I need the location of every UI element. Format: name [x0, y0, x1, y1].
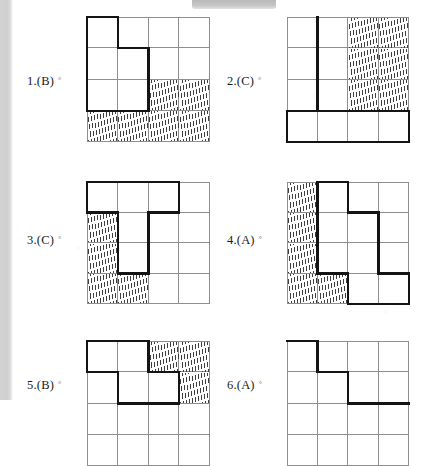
grid-cell[interactable] — [149, 435, 180, 466]
grid-cell[interactable] — [348, 274, 379, 305]
grid-cell[interactable] — [379, 372, 410, 403]
grid-cell[interactable] — [179, 182, 210, 213]
bold-outline-segment — [86, 110, 150, 112]
grid-cell[interactable] — [287, 80, 318, 111]
grid-cell[interactable] — [318, 404, 349, 435]
answer-label-text: 6.(A) — [227, 378, 255, 392]
grid-cell[interactable] — [87, 435, 118, 466]
scan-edge-shadow — [0, 0, 13, 400]
grid-cell[interactable] — [348, 404, 379, 435]
grid-cell[interactable] — [287, 341, 318, 372]
grid-cell[interactable] — [118, 213, 149, 244]
bold-outline-segment — [347, 211, 380, 213]
grid-cell[interactable] — [149, 48, 180, 79]
grid-cell[interactable] — [348, 372, 379, 403]
grid-cell[interactable] — [179, 435, 210, 466]
grid-cell[interactable] — [318, 213, 349, 244]
label-marker-icon: ° — [258, 76, 261, 85]
grid-cell[interactable] — [118, 243, 149, 274]
grid-cell[interactable] — [379, 274, 410, 305]
grid-cell[interactable] — [179, 48, 210, 79]
bold-outline-segment — [86, 16, 88, 112]
grid-cell[interactable] — [318, 243, 349, 274]
grid-cell[interactable] — [287, 404, 318, 435]
grid-cell[interactable] — [379, 182, 410, 213]
grid-cell[interactable] — [318, 372, 349, 403]
grid-cell[interactable] — [149, 404, 180, 435]
grid-cell[interactable] — [287, 48, 318, 79]
grid-cell[interactable] — [179, 404, 210, 435]
grid-cell[interactable] — [287, 111, 318, 142]
grid-cell[interactable] — [348, 213, 379, 244]
bold-outline-segment — [286, 340, 319, 342]
grid-cell[interactable] — [287, 372, 318, 403]
grid-cell[interactable] — [118, 404, 149, 435]
grid-cell[interactable] — [348, 182, 379, 213]
grid-cell[interactable] — [149, 213, 180, 244]
grid-cell[interactable] — [118, 17, 149, 48]
grid-cell[interactable] — [87, 80, 118, 111]
grid-cell[interactable] — [287, 17, 318, 48]
grid-cell[interactable] — [318, 111, 349, 142]
grid-cell[interactable] — [149, 274, 180, 305]
grid-cell[interactable] — [318, 435, 349, 466]
shaded-cell — [88, 111, 118, 141]
grid-cell[interactable] — [118, 372, 149, 403]
puzzle-grid-3[interactable] — [87, 182, 210, 304]
grid-cell[interactable] — [379, 243, 410, 274]
grid-cell[interactable] — [149, 372, 180, 403]
grid-cell[interactable] — [379, 404, 410, 435]
bold-outline-segment — [286, 141, 410, 143]
grid-cell[interactable] — [87, 404, 118, 435]
puzzle-grid-5[interactable] — [87, 341, 210, 466]
grid-cell[interactable] — [379, 213, 410, 244]
grid-cell[interactable] — [87, 372, 118, 403]
grid-cell[interactable] — [149, 243, 180, 274]
shaded-cell — [149, 111, 179, 141]
grid-cell[interactable] — [287, 435, 318, 466]
bold-outline-segment — [147, 47, 149, 112]
grid-cell[interactable] — [348, 243, 379, 274]
grid-cell[interactable] — [318, 182, 349, 213]
grid-cell[interactable] — [118, 80, 149, 111]
grid-cell[interactable] — [379, 341, 410, 372]
grid-cell[interactable] — [179, 213, 210, 244]
grid-cell[interactable] — [118, 341, 149, 372]
answer-label-2: 2.(C)° — [227, 74, 261, 89]
grid-cell[interactable] — [318, 17, 349, 48]
grid-cell[interactable] — [179, 17, 210, 48]
grid-cell[interactable] — [348, 435, 379, 466]
shaded-cell — [379, 49, 408, 79]
grid-cell[interactable] — [87, 48, 118, 79]
grid-cell[interactable] — [118, 435, 149, 466]
grid-cell[interactable] — [379, 435, 410, 466]
grid-cell[interactable] — [87, 182, 118, 213]
grid-cell[interactable] — [379, 111, 410, 142]
grid-cell[interactable] — [179, 243, 210, 274]
grid-cell[interactable] — [87, 341, 118, 372]
grid-cell[interactable] — [118, 182, 149, 213]
puzzle-grid-1[interactable] — [87, 17, 210, 142]
answer-label-text: 2.(C) — [227, 74, 254, 88]
grid-cell[interactable] — [149, 17, 180, 48]
shaded-cell — [288, 183, 317, 212]
grid-cell[interactable] — [179, 274, 210, 305]
label-marker-icon: ° — [58, 235, 61, 244]
bold-outline-segment — [86, 181, 88, 214]
puzzle-grid-4[interactable] — [287, 182, 409, 304]
shaded-cell — [180, 342, 210, 372]
puzzle-grid-2[interactable] — [287, 17, 409, 142]
shaded-cell — [318, 274, 347, 303]
bold-outline-segment — [86, 16, 119, 18]
grid-cell[interactable] — [87, 17, 118, 48]
grid-cell[interactable] — [149, 182, 180, 213]
grid-cell[interactable] — [318, 341, 349, 372]
bold-outline-segment — [377, 211, 379, 274]
puzzle-grid-6[interactable] — [287, 341, 409, 466]
bold-outline-segment — [347, 181, 349, 214]
grid-cell[interactable] — [118, 48, 149, 79]
grid-cell[interactable] — [318, 48, 349, 79]
grid-cell[interactable] — [348, 341, 379, 372]
grid-cell[interactable] — [318, 80, 349, 111]
grid-cell[interactable] — [348, 111, 379, 142]
